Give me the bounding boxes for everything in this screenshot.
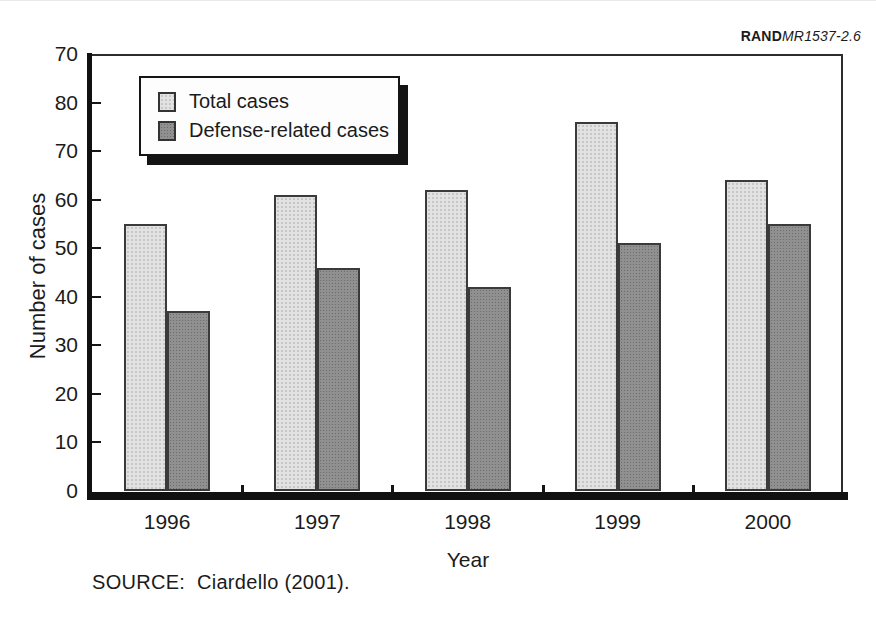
x-axis-tick-3 — [542, 485, 545, 492]
y-tick-label-2: 70 — [30, 139, 78, 163]
source-note: SOURCE: Ciardello (2001). — [92, 571, 350, 594]
y-axis-tick-60 — [92, 199, 101, 201]
legend-box: Total cases Defense-related cases — [139, 76, 400, 156]
y-tick-label-0: 70 — [30, 42, 78, 66]
x-axis-tick-1 — [241, 485, 244, 492]
figure-reference: RANDMR1537-2.6 — [741, 28, 861, 44]
x-tick-label-2000: 2000 — [745, 510, 792, 534]
bar-1999-total — [575, 122, 618, 491]
bar-1996-total — [124, 224, 167, 491]
plot-frame-top — [92, 54, 843, 56]
y-axis-tick-80 — [92, 102, 101, 104]
bar-2000-defense — [768, 224, 811, 491]
plot-frame-right — [841, 54, 843, 492]
y-tick-label-7: 20 — [30, 382, 78, 406]
legend-label-total-cases: Total cases — [189, 90, 289, 113]
x-tick-label-1998: 1998 — [444, 510, 491, 534]
document-ref: MR1537-2.6 — [782, 28, 861, 44]
y-axis-tick-20 — [92, 393, 101, 395]
bar-2000-total — [725, 180, 768, 491]
legend-item-total-cases: Total cases — [158, 91, 398, 113]
y-axis-tick-70 — [92, 150, 101, 152]
y-axis-tick-50 — [92, 247, 101, 249]
y-tick-label-1: 80 — [30, 91, 78, 115]
legend-item-defense-related-cases: Defense-related cases — [158, 120, 398, 142]
bar-1998-defense — [468, 287, 511, 491]
x-tick-label-1997: 1997 — [294, 510, 341, 534]
y-axis-line — [87, 53, 92, 500]
y-tick-label-9: 0 — [30, 479, 78, 503]
bar-1997-defense — [317, 268, 360, 491]
y-axis-tick-30 — [92, 344, 101, 346]
bar-chart-figure: RANDMR1537-2.6 7080706050403020100199619… — [0, 0, 876, 621]
defense-related-cases-swatch-icon — [158, 121, 176, 141]
y-tick-label-8: 10 — [30, 430, 78, 454]
total-cases-swatch-icon — [158, 92, 176, 112]
bar-1997-total — [274, 195, 317, 491]
y-axis-title: Number of cases — [25, 193, 51, 359]
legend-label-defense-related-cases: Defense-related cases — [189, 119, 389, 142]
bar-1996-defense — [167, 311, 210, 491]
x-tick-label-1996: 1996 — [144, 510, 191, 534]
x-axis-tick-4 — [692, 485, 695, 492]
y-axis-tick-40 — [92, 296, 101, 298]
x-tick-label-1999: 1999 — [594, 510, 641, 534]
bar-1999-defense — [618, 243, 661, 491]
x-axis-line — [87, 492, 848, 500]
bar-1998-total — [425, 190, 468, 491]
y-axis-tick-10 — [92, 441, 101, 443]
x-axis-title: Year — [447, 548, 489, 572]
x-axis-tick-2 — [391, 485, 394, 492]
publisher-name: RAND — [741, 28, 782, 44]
